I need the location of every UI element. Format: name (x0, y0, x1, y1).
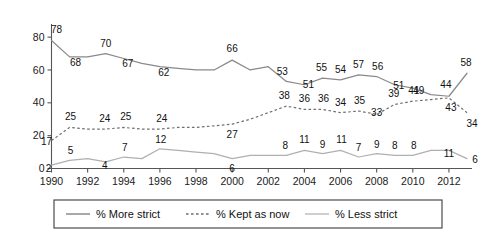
data-point-label: 9 (374, 139, 380, 150)
data-point-labels: 7868706762665351555457565149445817252425… (41, 24, 478, 174)
x-tick-label: 2008 (365, 175, 389, 187)
data-point-label: 44 (440, 79, 452, 90)
x-axis-ticks: 1990199219941996199820002002200420062008… (40, 169, 461, 187)
x-tick-label: 2010 (401, 175, 425, 187)
x-tick-label: 2004 (293, 175, 317, 187)
data-point-label: 35 (354, 95, 366, 106)
x-tick-label: 1996 (148, 175, 172, 187)
x-tick-label: 2006 (329, 175, 353, 187)
data-point-label: 8 (392, 140, 398, 151)
data-point-label: 68 (70, 57, 82, 68)
data-point-label: 24 (99, 113, 111, 124)
series-line-less-strict (52, 149, 468, 165)
data-point-label: 55 (316, 62, 328, 73)
data-point-label: 38 (279, 90, 291, 101)
data-point-label: 33 (371, 107, 383, 118)
data-point-label: 34 (335, 97, 347, 108)
data-point-label: 8 (283, 140, 289, 151)
data-point-label: 70 (100, 38, 112, 49)
data-point-label: 4 (102, 160, 108, 171)
data-point-label: 8 (411, 140, 417, 151)
legend-item-label: % More strict (96, 208, 160, 220)
data-point-label: 5 (68, 145, 74, 156)
data-point-label: 56 (372, 61, 384, 72)
y-tick-label: 80 (33, 31, 45, 43)
x-tick-label: 2000 (220, 175, 244, 187)
data-point-label: 51 (303, 79, 315, 90)
data-point-label: 25 (65, 111, 77, 122)
y-tick-label: 60 (33, 64, 45, 76)
series-line-kept-as-now (52, 98, 468, 141)
data-point-label: 11 (444, 148, 455, 159)
axes: 020406080 199019921994199619982000200220… (33, 24, 472, 187)
data-point-label: 58 (460, 57, 472, 68)
data-point-label: 2 (46, 163, 52, 174)
data-point-label: 6 (472, 154, 478, 165)
data-point-label: 78 (51, 24, 63, 35)
y-tick-label: 0 (39, 162, 45, 174)
y-tick-label: 40 (33, 96, 45, 108)
data-point-label: 39 (388, 88, 400, 99)
data-point-label: 6 (229, 163, 235, 174)
data-point-label: 7 (122, 142, 128, 153)
data-point-label: 24 (156, 113, 168, 124)
data-point-label: 34 (466, 118, 478, 129)
data-point-label: 25 (120, 111, 132, 122)
data-point-label: 17 (41, 136, 53, 147)
data-point-label: 12 (155, 134, 167, 145)
x-tick-label: 1998 (184, 175, 208, 187)
series-lines (52, 40, 468, 165)
data-point-label: 66 (227, 43, 239, 54)
line-chart: 020406080 199019921994199619982000200220… (0, 0, 496, 239)
legend-item-label: % Kept as now (216, 208, 289, 220)
y-axis-ticks: 020406080 (33, 31, 52, 174)
data-point-label: 7 (356, 142, 362, 153)
data-point-label: 36 (299, 93, 311, 104)
chart-canvas: 020406080 199019921994199619982000200220… (0, 0, 496, 239)
x-tick-label: 1990 (40, 175, 64, 187)
data-point-label: 11 (299, 134, 310, 145)
chart-legend: % More strict% Kept as now% Less strict (54, 200, 442, 228)
x-tick-label: 2012 (437, 175, 461, 187)
x-tick-label: 1994 (112, 175, 136, 187)
data-point-label: 27 (227, 129, 239, 140)
data-point-label: 53 (277, 66, 289, 77)
data-point-label: 9 (320, 139, 326, 150)
legend-item-label: % Less strict (335, 208, 397, 220)
data-point-label: 67 (122, 58, 134, 69)
x-tick-label: 2002 (257, 175, 281, 187)
data-point-label: 41 (408, 85, 420, 96)
data-point-label: 54 (335, 64, 347, 75)
series-line-more-strict (52, 40, 468, 96)
data-point-label: 11 (336, 134, 347, 145)
data-point-label: 62 (158, 67, 170, 78)
x-tick-label: 1992 (76, 175, 100, 187)
data-point-label: 43 (445, 102, 457, 113)
data-point-label: 57 (353, 59, 365, 70)
data-point-label: 36 (318, 93, 330, 104)
